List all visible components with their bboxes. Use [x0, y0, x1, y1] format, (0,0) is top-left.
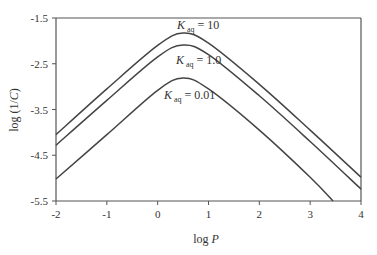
x-axis-label: log P	[193, 232, 219, 246]
x-tick-label: 2	[257, 208, 263, 220]
y-tick-label: -1.5	[31, 12, 49, 24]
series-label-2: K aq = 0.01	[163, 88, 215, 104]
chart: -1.5-2.5-3.5-4.5-5.5-2-101234 K aq = 10K…	[0, 0, 377, 255]
x-tick-label: 4	[358, 208, 364, 220]
y-axis-label: log (1/C)	[7, 88, 21, 132]
y-tick-label: -3.5	[31, 104, 49, 116]
x-tick-label: -2	[51, 208, 60, 220]
y-tick-label: -2.5	[31, 58, 49, 70]
x-tick-label: 0	[155, 208, 161, 220]
series-label-1: K aq = 1.0	[175, 53, 221, 69]
y-tick-label: -4.5	[31, 149, 49, 161]
series-labels: K aq = 10K aq = 1.0K aq = 0.01	[163, 18, 221, 104]
x-tick-label: -1	[102, 208, 111, 220]
x-tick-label: 3	[307, 208, 313, 220]
y-tick-label: -5.5	[31, 195, 49, 207]
axes: -1.5-2.5-3.5-4.5-5.5-2-101234	[31, 12, 365, 220]
x-tick-label: 1	[206, 208, 212, 220]
series-label-0: K aq = 10	[176, 18, 219, 34]
